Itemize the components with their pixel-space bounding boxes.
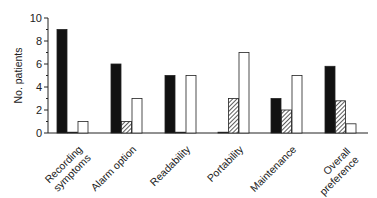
bar-series-white <box>346 124 356 133</box>
bar-series-white <box>239 53 249 134</box>
bar-series-black <box>218 132 228 133</box>
bar-series-hatched <box>282 110 292 133</box>
x-tick-label: Overallpreference <box>308 145 361 198</box>
bar-group <box>218 53 249 134</box>
bars <box>57 30 356 134</box>
svg-text:Alarm option: Alarm option <box>88 143 138 193</box>
bar-series-white <box>132 99 142 134</box>
x-axis-labels: RecordingsymptomsAlarm optionReadability… <box>42 142 361 197</box>
svg-text:Maintenance: Maintenance <box>247 143 298 194</box>
y-axis-title: No. patients <box>12 47 24 103</box>
bar-series-hatched <box>68 132 78 133</box>
bar-series-hatched <box>336 101 346 133</box>
bar-series-black <box>325 66 335 133</box>
bar-series-hatched <box>122 122 132 134</box>
bar-series-hatched <box>229 99 239 134</box>
bar-series-hatched <box>176 132 186 133</box>
bar-series-black <box>165 76 175 134</box>
bar-series-black <box>57 30 67 134</box>
y-tick-label: 6 <box>36 58 42 70</box>
y-tick-label: 2 <box>36 104 42 116</box>
bar-group <box>111 64 142 133</box>
y-tick-label: 4 <box>36 81 42 93</box>
x-tick-label: Maintenance <box>247 143 298 194</box>
x-tick-label: Portability <box>204 142 246 184</box>
x-tick-label: Readability <box>147 142 193 188</box>
bar-series-white <box>78 122 88 134</box>
bar-series-white <box>292 76 302 134</box>
y-tick-label: 10 <box>30 12 42 24</box>
svg-text:Portability: Portability <box>204 142 246 184</box>
y-tick-label: 8 <box>36 35 42 47</box>
x-tick-label: Recordingsymptoms <box>42 143 93 194</box>
svg-text:Readability: Readability <box>147 142 193 188</box>
bar-group <box>57 30 88 134</box>
bar-group <box>165 76 196 134</box>
x-tick-label: Alarm option <box>88 143 138 193</box>
bar-series-black <box>111 64 121 133</box>
y-tick-label: 0 <box>36 127 42 139</box>
bar-series-white <box>186 76 196 134</box>
bar-group <box>271 76 302 134</box>
bar-chart: No. patients 0246810 RecordingsymptomsAl… <box>0 0 377 198</box>
bar-series-black <box>271 99 281 134</box>
axes: 0246810 <box>30 12 368 139</box>
bar-group <box>325 66 356 133</box>
